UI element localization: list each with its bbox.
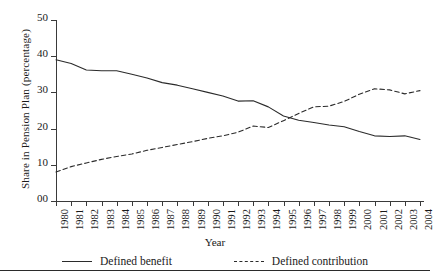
x-tick-mark <box>177 201 178 206</box>
y-tick-label: 20 <box>37 121 48 132</box>
chart-legend: Defined benefit Defined contribution <box>0 252 430 270</box>
y-tick: 50 <box>22 20 56 21</box>
x-tick-mark <box>71 201 72 206</box>
x-tick-mark <box>284 201 285 206</box>
legend-label-defined-benefit: Defined benefit <box>100 255 172 267</box>
x-tick-mark <box>253 201 254 206</box>
x-tick-label: 1990 <box>212 209 223 230</box>
x-tick-label: 1983 <box>106 209 117 230</box>
x-tick-mark <box>147 201 148 206</box>
x-tick-mark <box>299 201 300 206</box>
x-tick-label: 1995 <box>288 209 299 230</box>
plot-area: 001020304050 198019811982198319841985198… <box>56 20 424 201</box>
x-tick-label: 1987 <box>166 209 177 230</box>
x-tick-mark <box>359 201 360 206</box>
x-tick-label: 1981 <box>75 209 86 230</box>
x-tick-mark <box>314 201 315 206</box>
y-tick-label: 00 <box>37 193 48 204</box>
y-axis-title: Share in Pension Plan (percentage) <box>19 4 31 214</box>
x-tick-mark <box>132 201 133 206</box>
x-tick-label: 1984 <box>121 209 132 230</box>
x-tick-label: 2002 <box>394 209 405 230</box>
legend-item-defined-contribution: Defined contribution <box>234 255 368 267</box>
x-tick-mark <box>375 201 376 206</box>
x-tick-label: 1992 <box>242 209 253 230</box>
x-tick-label: 2004 <box>424 209 435 230</box>
x-tick-label: 1980 <box>60 209 71 230</box>
y-tick-label: 40 <box>37 48 48 59</box>
x-tick-label: 2001 <box>379 209 390 230</box>
x-axis-title: Year <box>0 236 430 248</box>
x-tick-label: 1998 <box>333 209 344 230</box>
x-tick-label: 1985 <box>136 209 147 230</box>
y-tick-label: 30 <box>37 84 48 95</box>
x-tick-mark <box>223 201 224 206</box>
x-tick-mark <box>238 201 239 206</box>
x-tick-label: 2003 <box>409 209 420 230</box>
x-tick-label: 1986 <box>151 209 162 230</box>
x-tick-mark <box>390 201 391 206</box>
x-tick-mark <box>86 201 87 206</box>
x-tick-label: 1988 <box>181 209 192 230</box>
x-tick-label: 1999 <box>348 209 359 230</box>
y-tick-label: 50 <box>37 12 48 23</box>
legend-divider <box>0 270 430 271</box>
line-defined-benefit <box>56 60 420 140</box>
x-tick-mark <box>329 201 330 206</box>
y-tick: 10 <box>22 165 56 166</box>
x-tick-label: 2000 <box>363 209 374 230</box>
y-tick: 40 <box>22 56 56 57</box>
x-tick-mark <box>117 201 118 206</box>
x-tick-mark <box>344 201 345 206</box>
x-tick-mark <box>420 201 421 206</box>
y-tick: 00 <box>22 201 56 202</box>
legend-line-dashed-icon <box>234 257 264 265</box>
x-tick-mark <box>56 201 57 206</box>
legend-item-defined-benefit: Defined benefit <box>62 255 172 267</box>
y-tick-label: 10 <box>37 157 48 168</box>
x-tick-mark <box>208 201 209 206</box>
x-tick-label: 1991 <box>227 209 238 230</box>
x-tick-mark <box>102 201 103 206</box>
y-tick: 20 <box>22 129 56 130</box>
x-tick-mark <box>162 201 163 206</box>
y-tick: 30 <box>22 92 56 93</box>
legend-label-defined-contribution: Defined contribution <box>272 255 368 267</box>
x-tick-label: 1994 <box>272 209 283 230</box>
x-axis-line <box>56 201 424 202</box>
x-tick-label: 1993 <box>257 209 268 230</box>
legend-line-solid-icon <box>62 257 92 265</box>
x-tick-label: 1996 <box>303 209 314 230</box>
data-lines <box>56 20 424 201</box>
x-tick-mark <box>268 201 269 206</box>
x-tick-mark <box>405 201 406 206</box>
x-tick-label: 1989 <box>197 209 208 230</box>
x-tick-mark <box>193 201 194 206</box>
x-tick-label: 1997 <box>318 209 329 230</box>
x-tick-label: 1982 <box>90 209 101 230</box>
